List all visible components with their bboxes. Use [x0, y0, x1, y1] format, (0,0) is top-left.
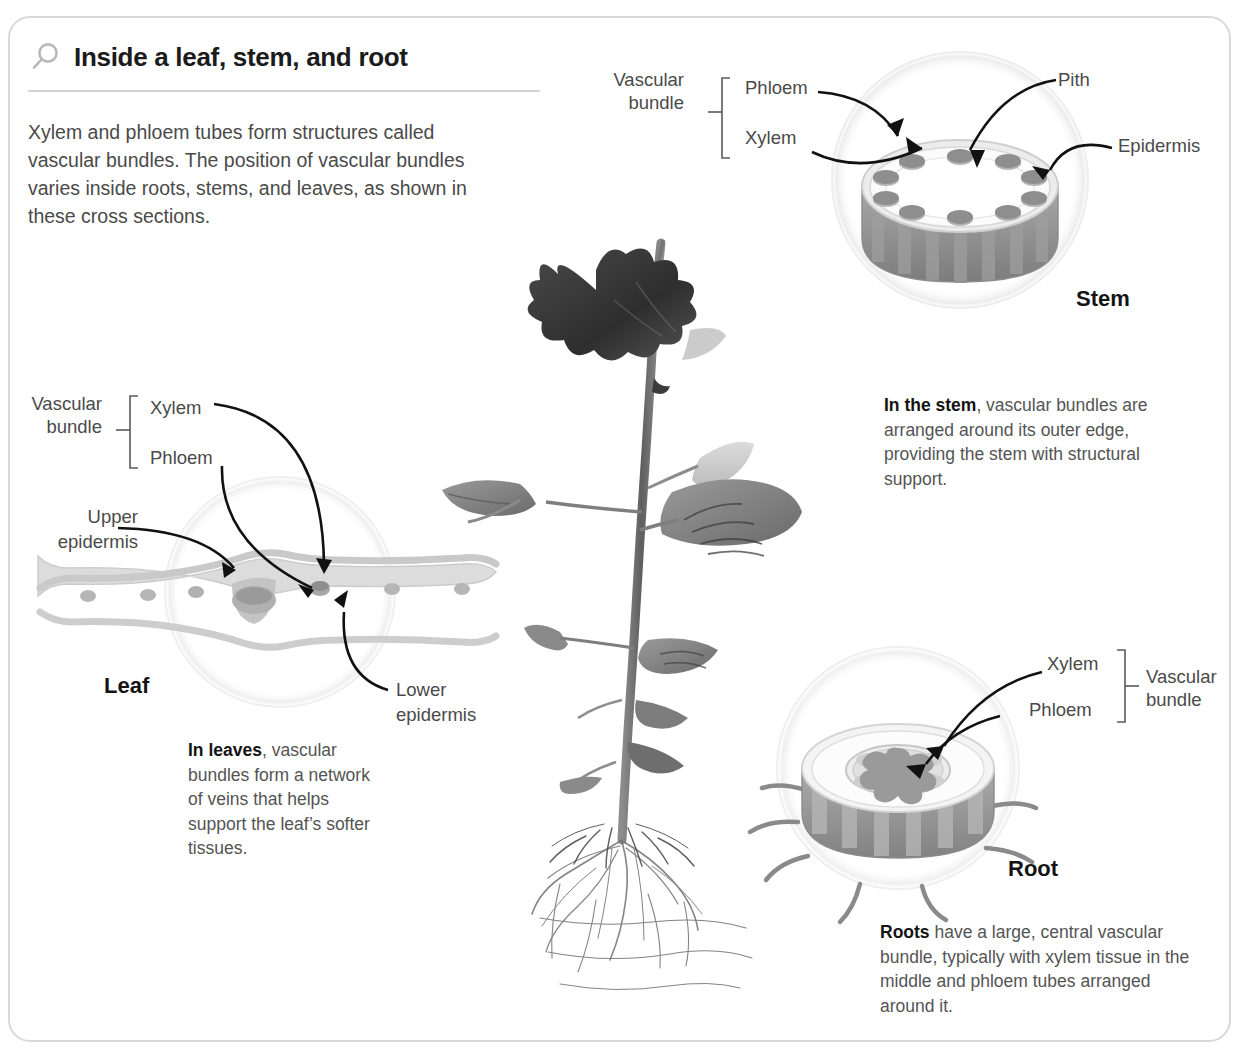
diagram-page: Inside a leaf, stem, and root Xylem and …: [0, 0, 1243, 1059]
stem-caption: In the stem, vascular bundles are arrang…: [884, 393, 1149, 491]
title-row: Inside a leaf, stem, and root: [28, 40, 548, 74]
intro-paragraph: Xylem and phloem tubes form structures c…: [28, 118, 498, 230]
title-divider: [28, 90, 540, 92]
stem-section-title: Stem: [1076, 286, 1130, 312]
stem-caption-bold: In the stem: [884, 395, 976, 415]
header-block: Inside a leaf, stem, and root Xylem and …: [28, 40, 548, 230]
leaf-caption-bold: In leaves: [188, 740, 262, 760]
leaf-caption: In leaves, vascular bundles form a netwo…: [188, 738, 373, 861]
magnifier-icon: [28, 40, 62, 74]
root-caption: Roots have a large, central vascular bun…: [880, 920, 1200, 1018]
root-section-title: Root: [1008, 856, 1058, 882]
root-caption-bold: Roots: [880, 922, 930, 942]
page-title: Inside a leaf, stem, and root: [74, 42, 408, 73]
leaf-section-title: Leaf: [104, 673, 149, 699]
